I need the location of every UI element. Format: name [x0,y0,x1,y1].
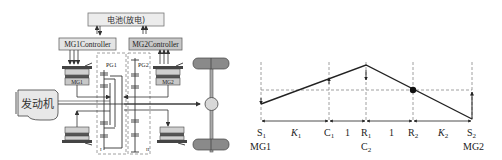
diagram-canvas: 电池(放电) MG1Controller MG2Controller [0,0,502,160]
mg1-label: MG1 [71,79,83,85]
speed-lever [261,65,472,119]
mg1-controller-label: MG1Controller [64,40,111,49]
zone-ii-label: II [146,147,150,152]
lower-motor-right [157,127,187,145]
node-label-s2: S2 [467,127,477,140]
pg1-label: PG1 [106,62,117,68]
pg2-label: PG2 [138,62,149,68]
span-label-1a: 1 [345,127,350,138]
battery-box: 电池(放电) [88,13,164,26]
node-below-s1: MG1 [250,141,271,152]
lever-diagram: S1 MG1 C1 R1 C2 R2 S2 MG2 K1 1 1 K2 [250,62,484,154]
lower-motor-left [62,127,92,145]
wheel-axle [193,58,229,152]
span-label-k1: K1 [290,127,302,140]
node-label-r1: R1 [361,127,372,140]
node-label-s1: S1 [257,127,267,140]
powertrain-schematic: 电池(放电) MG1Controller MG2Controller [16,13,229,154]
mg1-motor: MG1 [62,63,92,85]
mg2-controller-box: MG2Controller [129,38,182,50]
mg2-controller-label: MG2Controller [132,40,179,49]
span-label-1b: 1 [389,127,394,138]
mg2-motor: MG2 [153,63,183,85]
span-label-k2: K2 [437,127,449,140]
mg2-label: MG2 [162,79,174,85]
node-label-c1: C1 [324,127,335,140]
node-label-r2: R2 [408,127,419,140]
node-below-r1: C2 [361,141,372,154]
engine-label: 发动机 [21,97,54,111]
zone-ii-box [128,53,150,154]
differential [205,98,218,111]
mg1-controller-box: MG1Controller [59,38,116,50]
zone-i-label: I [100,147,102,152]
r2-operating-point [410,87,416,93]
pg2-gears [131,58,139,152]
battery-label: 电池(放电) [107,15,145,25]
pg1-gears [100,70,122,150]
node-below-s2: MG2 [463,141,484,152]
engine-block: 发动机 [16,90,58,120]
